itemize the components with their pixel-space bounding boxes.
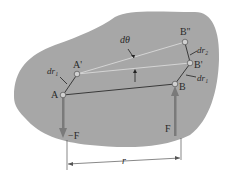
label-B: B <box>179 81 186 92</box>
point-Aprime <box>74 71 80 77</box>
point-B <box>172 81 178 87</box>
label-Aprime: A' <box>73 59 82 70</box>
couple-work-diagram: A A' B B' B'' dθ dr₁ dr₁ dr₂ −F F r <box>0 0 231 180</box>
label-Bdoubleprime: B'' <box>180 26 190 37</box>
label-dr2: dr₂ <box>197 45 208 55</box>
label-dr1-right: dr₁ <box>197 73 208 83</box>
label-A: A <box>51 89 59 100</box>
dimension-arrow-right <box>175 156 180 160</box>
dimension-arrow-left <box>68 162 73 166</box>
point-Bdoubleprime <box>182 39 188 45</box>
label-Bprime: B' <box>194 59 203 70</box>
force-right-shaft <box>174 94 177 136</box>
point-A <box>60 92 66 98</box>
label-dtheta: dθ <box>120 34 130 45</box>
point-Bprime <box>187 60 193 66</box>
label-force-left: −F <box>68 130 80 141</box>
label-distance: r <box>122 155 126 166</box>
label-dr1-left: dr₁ <box>47 66 58 76</box>
force-left-shaft <box>62 95 65 133</box>
label-force-right: F <box>165 123 171 134</box>
